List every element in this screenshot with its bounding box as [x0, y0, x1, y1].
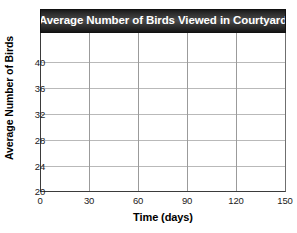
y-axis-title: Average Number of Birds: [0, 0, 17, 195]
x-tick-label-0: 0: [25, 196, 55, 206]
plot-area: [40, 33, 286, 192]
x-tick-label-30: 30: [74, 196, 104, 206]
x-tick-label-90: 90: [172, 196, 202, 206]
y-axis-title-text: Average Number of Birds: [3, 36, 15, 160]
x-axis-title: Time (days): [40, 211, 286, 223]
x-tick-label-150: 150: [270, 196, 297, 206]
y-tick-label-40: 40: [23, 58, 45, 68]
x-tick-label-60: 60: [123, 196, 153, 206]
y-tick-label-36: 36: [23, 84, 45, 94]
y-tick-label-28: 28: [23, 136, 45, 146]
y-tick-label-32: 32: [23, 110, 45, 120]
data-series-layer: [41, 33, 286, 192]
chart-title: Average Number of Birds Viewed in Courty…: [40, 15, 286, 27]
chart-title-banner: Average Number of Birds Viewed in Courty…: [40, 9, 286, 33]
y-tick-label-24: 24: [23, 162, 45, 172]
bird-count-chart: Average Number of Birds Viewed in Courty…: [0, 0, 297, 233]
x-tick-label-120: 120: [221, 196, 251, 206]
